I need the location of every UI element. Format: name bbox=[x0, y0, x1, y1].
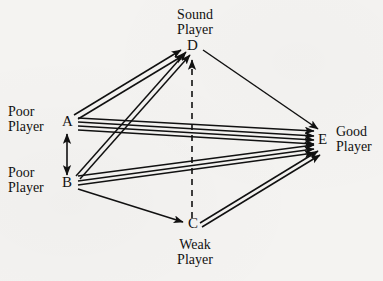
node-label-c: C bbox=[188, 216, 198, 231]
role-label-weak-player-line2: Player bbox=[160, 252, 230, 267]
node-label-d: D bbox=[187, 38, 198, 53]
diagram-canvas: A B C D E Sound Player Poor Player Poor … bbox=[0, 0, 383, 281]
role-label-poor-player-a-line2: Player bbox=[8, 119, 60, 134]
edge-d-to-e bbox=[203, 50, 318, 129]
role-label-sound-player-line2: Player bbox=[160, 22, 230, 37]
edge-a-to-d bbox=[74, 50, 184, 119]
role-label-poor-player-a-line1: Poor bbox=[8, 104, 60, 119]
role-label-poor-player-b-line2: Player bbox=[8, 180, 60, 195]
role-label-weak-player: Weak Player bbox=[160, 237, 230, 267]
node-label-e: E bbox=[318, 132, 327, 147]
edge-b-to-d bbox=[76, 52, 190, 179]
role-label-sound-player: Sound Player bbox=[160, 7, 230, 37]
role-label-good-player-line2: Player bbox=[336, 139, 383, 154]
node-label-a: A bbox=[62, 114, 73, 129]
edge-a-to-e bbox=[78, 118, 314, 144]
role-label-poor-player-b-line1: Poor bbox=[8, 165, 60, 180]
role-label-sound-player-line1: Sound bbox=[160, 7, 230, 22]
role-label-poor-player-b: Poor Player bbox=[8, 165, 60, 195]
edge-b-to-c bbox=[78, 189, 183, 222]
edge-b-to-e bbox=[78, 145, 314, 185]
role-label-good-player-line1: Good bbox=[336, 124, 383, 139]
role-label-poor-player-a: Poor Player bbox=[8, 104, 60, 134]
role-label-good-player: Good Player bbox=[336, 124, 383, 154]
node-label-b: B bbox=[62, 175, 72, 190]
role-label-weak-player-line1: Weak bbox=[160, 237, 230, 252]
